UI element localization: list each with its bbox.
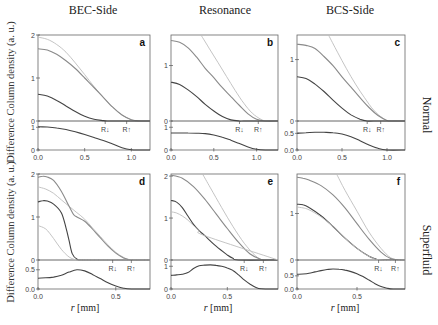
radius-marker-label: R↑ [259,265,268,272]
x-tick-label: 0.0 [33,154,43,161]
x-tick-label: 0.0 [292,154,302,161]
panel-f: 010.00.50.00.5R↓R↑f [284,174,405,300]
curve-difference [297,269,405,289]
column-title-resonance: Resonance [199,3,251,17]
x-tick-label: 1.0 [126,154,136,161]
curve-difference [297,132,405,150]
radius-marker-label: R↑ [376,126,385,133]
panel-a: 012010.00.51.0R↓R↑a [31,32,150,162]
svg-text:r [mm]: r [mm] [71,302,100,313]
x-tick-label: 1.0 [382,154,392,161]
y-tick-label: 1 [31,75,35,82]
x-axis-unit: [mm] [75,302,100,313]
x-tick-label: 0.0 [166,154,176,161]
y-tick-label: 1 [290,210,294,217]
x-axis-label-e: r [mm] [204,302,233,313]
y-tick-label: 0 [31,257,35,264]
panel-letter: e [267,176,273,187]
y-tick-label: 2 [31,32,35,39]
curve-minority [297,77,405,121]
y-axis-label-bottom: Difference Column density (a. u.) [5,161,17,303]
y-tick-label: 0 [290,118,294,125]
y-tick-label: 0 [31,147,35,154]
x-tick-label: 0.0 [33,293,43,300]
curve-majority [297,177,405,260]
curve-majority-light-fit [38,37,150,121]
y-tick-label: 0 [164,286,168,293]
panel-letter: c [394,37,400,48]
panel-letter: d [139,176,145,187]
y-tick-label: 0.0 [284,286,294,293]
x-axis-label-d: r [mm] [71,302,100,313]
row-title-superfluid: Superfluid [420,225,434,276]
x-tick-label: 0.5 [111,293,121,300]
x-tick-label: 0.5 [222,293,232,300]
curve-minority [171,82,278,121]
y-tick-label: 0.5 [284,272,294,279]
curve-majority [38,176,150,260]
radius-marker-label: R↑ [127,265,136,272]
panels: 012010.00.51.0R↓R↑a01010.00.51.0R↓R↑b010… [25,32,405,301]
svg-text:r [mm]: r [mm] [331,302,360,313]
radius-marker-label: R↑ [391,265,400,272]
y-tick-label: 1 [164,62,168,69]
radius-marker-label: R↓ [235,126,244,133]
y-tick-label: 1 [31,124,35,131]
y-axis-label-top: Difference Column density (a. u.) [5,21,17,163]
curve-minority [171,200,278,260]
panel-letter: b [267,37,273,48]
x-tick-label: 0.5 [209,154,219,161]
x-axis-label-f: r [mm] [331,302,360,313]
radius-marker-label: R↓ [101,126,110,133]
x-tick-label: 0.0 [166,293,176,300]
svg-text:r [mm]: r [mm] [204,302,233,313]
x-tick-label: 0.0 [292,293,302,300]
curve-majority [38,49,150,121]
panel-letter: a [139,37,145,48]
radius-marker-label: R↓ [240,265,249,272]
radius-marker-label: R↓ [363,126,372,133]
figure: BEC-Side Resonance BCS-Side Normal Super… [0,0,438,325]
column-title-bec-side: BEC-Side [69,3,118,17]
curve-minority [38,94,150,121]
panel-d: 0120.00.50.00.5R↓R↑d [25,171,150,301]
radius-marker-label: R↑ [254,126,263,133]
x-tick-label: 0.5 [337,154,347,161]
y-tick-label: 2 [164,173,168,180]
x-tick-label: 0.5 [352,293,362,300]
panel-c: 010.00.50.00.51.0R↓R↑c [284,35,405,161]
y-tick-label: 1 [31,214,35,221]
curve-majority-light-fit [38,187,150,260]
curve-minority [297,204,405,260]
y-tick-label: 1 [164,263,168,270]
y-tick-label: 1 [164,215,168,222]
y-tick-label: 0.5 [25,266,35,273]
x-tick-label: 0.5 [80,154,90,161]
y-tick-label: 0.0 [25,286,35,293]
y-tick-label: 1 [290,56,294,63]
y-tick-label: 2 [31,171,35,178]
curve-difference [38,270,150,289]
radius-marker-label: R↑ [122,126,131,133]
curve-majority [171,41,278,122]
panel-letter: f [397,176,401,187]
curve-majority-light-fit [337,174,405,260]
y-tick-label: 0 [290,257,294,264]
curve-difference [171,133,278,150]
curve-difference [38,127,150,150]
panel-frame [38,35,150,150]
panel-b: 01010.00.51.0R↓R↑b [164,35,278,161]
y-tick-label: 0.0 [284,147,294,154]
radius-marker-label: R↓ [374,265,383,272]
column-title-bcs-side: BCS-Side [326,3,374,17]
curve-majority [171,175,278,260]
y-tick-label: 0.5 [284,130,294,137]
panel-e: 012010.00.5R↓R↑e [164,173,278,300]
row-title-normal: Normal [420,97,434,134]
radius-marker-label: R↓ [108,265,117,272]
x-tick-label: 1.0 [252,154,262,161]
y-tick-label: 0 [164,147,168,154]
y-tick-label: 1 [164,124,168,131]
